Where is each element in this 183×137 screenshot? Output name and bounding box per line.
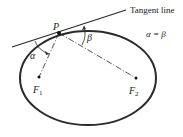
tangent-line [12,10,126,47]
focus-f1-label: F1 [32,84,43,97]
angle-alpha-label: α [30,50,36,61]
angle-beta-arrow [82,26,86,30]
ellipse-reflection-diagram: P α β F1 F2 Tangent line α = β [0,0,183,137]
focus-f2-label: F2 [128,85,139,98]
angle-beta-label: β [86,32,92,43]
tangent-line-label: Tangent line [130,5,175,15]
line-p-to-f2 [59,33,136,78]
equation-label: α = β [146,29,166,39]
point-p-label: P [52,21,59,32]
focus-f2-dot [135,77,138,80]
focus-f1-dot [38,76,41,79]
angle-alpha-arrow [45,51,49,55]
